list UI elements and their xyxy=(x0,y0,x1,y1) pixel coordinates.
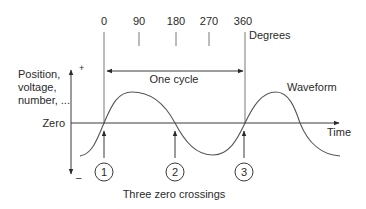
zero-crossings-caption: Three zero crossings xyxy=(123,188,226,200)
minus-sign: – xyxy=(76,172,82,183)
one-cycle-label: One cycle xyxy=(150,73,199,85)
degree-tick-label-0: 0 xyxy=(101,15,107,27)
one-cycle-indicator: One cycle xyxy=(107,71,243,85)
y-axis-label-line-2: voltage, xyxy=(18,81,57,93)
y-axis-label-line-1: Position, xyxy=(18,68,60,80)
time-axis: Time xyxy=(71,123,351,138)
degree-tick-label-270: 270 xyxy=(200,15,218,27)
zero-crossing-marker-2: 2 xyxy=(166,131,184,181)
waveform-zero-crossings-diagram: 0 90 180 270 360 Degrees One cycle + – P… xyxy=(0,0,366,209)
zero-crossing-markers: 1 2 3 Three zero crossings xyxy=(95,131,253,200)
zero-crossing-number-3: 3 xyxy=(241,166,247,178)
degree-scale: 0 90 180 270 360 Degrees xyxy=(101,15,291,124)
time-label: Time xyxy=(327,126,351,138)
y-axis-label-line-3: number, ... xyxy=(18,94,70,106)
waveform: Waveform xyxy=(80,81,340,156)
degree-tick-label-180: 180 xyxy=(167,15,185,27)
zero-crossing-number-1: 1 xyxy=(101,166,107,178)
zero-label: Zero xyxy=(42,117,65,129)
degrees-unit-label: Degrees xyxy=(249,29,291,41)
degree-tick-label-360: 360 xyxy=(234,15,252,27)
zero-crossing-marker-3: 3 xyxy=(235,131,253,181)
waveform-label: Waveform xyxy=(287,81,337,93)
zero-crossing-number-2: 2 xyxy=(172,166,178,178)
degree-tick-label-90: 90 xyxy=(133,15,145,27)
waveform-curve xyxy=(80,92,340,156)
plus-sign: + xyxy=(79,63,84,73)
